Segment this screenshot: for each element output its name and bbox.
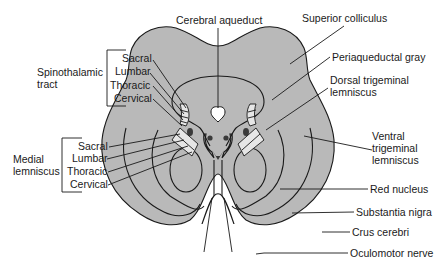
label-superior-colliculus: Superior colliculus	[302, 12, 387, 24]
label-dorsal-trigeminal-2: lemniscus	[330, 86, 377, 98]
label-red-nucleus: Red nucleus	[370, 183, 428, 195]
label-spinothalamic-1: Spinothalamic	[37, 66, 103, 78]
label-medial-sacral: Sacral	[78, 140, 108, 152]
label-medial-lumbar: Lumbar	[72, 152, 108, 164]
label-crus-cerebri: Crus cerebri	[352, 226, 409, 238]
leader-oculomotor-nerve	[256, 253, 348, 254]
spinothalamic-tract-right	[247, 104, 256, 126]
label-dorsal-trigeminal-1: Dorsal trigeminal	[330, 74, 409, 86]
label-substantia-nigra: Substantia nigra	[356, 206, 432, 218]
label-spinothalamic-thoracic: Thoracic	[110, 79, 150, 91]
nucleus-dot-left	[207, 135, 212, 140]
label-spinothalamic-cervical: Cervical	[114, 92, 152, 104]
label-oculomotor-nerve: Oculomotor nerve	[350, 247, 434, 259]
leader-substantia-nigra	[292, 212, 354, 213]
label-medial-thoracic: Thoracic	[67, 165, 107, 177]
label-medial-lemniscus-1: Medial	[13, 153, 44, 165]
label-medial-cervical: Cervical	[70, 178, 108, 190]
nucleus-dot-right	[223, 135, 228, 140]
label-ventral-trigeminal-1: Ventral	[372, 130, 405, 142]
midbrain-diagram: Cerebral aqueduct Superior colliculus Pe…	[0, 0, 436, 266]
label-ventral-trigeminal-2: trigeminal	[372, 142, 418, 154]
label-periaqueductal-gray: Periaqueductal gray	[332, 51, 426, 63]
label-spinothalamic-lumbar: Lumbar	[115, 65, 151, 77]
label-medial-lemniscus-2: lemniscus	[13, 165, 60, 177]
label-ventral-trigeminal-3: lemniscus	[372, 154, 419, 166]
label-spinothalamic-sacral: Sacral	[122, 52, 152, 64]
spinothalamic-tract-left	[180, 104, 189, 126]
label-spinothalamic-2: tract	[37, 78, 58, 90]
label-cerebral-aqueduct: Cerebral aqueduct	[176, 14, 262, 26]
